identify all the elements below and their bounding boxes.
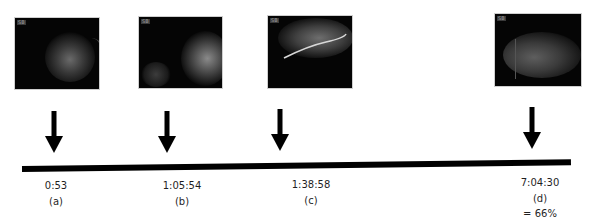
timeline-axis <box>22 159 571 172</box>
event-label-b: (b) <box>142 196 222 208</box>
arrow-down-icon <box>271 109 289 151</box>
tissue-shape <box>141 62 171 87</box>
thumbnail-c: SB <box>267 15 353 89</box>
arrow-down-icon <box>45 111 63 153</box>
time-label-a: 0:53 <box>16 180 96 192</box>
event-label-c: (c) <box>271 195 351 207</box>
arrow-down-icon <box>158 111 176 153</box>
completion-note: = 66% <box>500 208 580 220</box>
thumbnail-tag: SB <box>141 19 150 24</box>
fold-highlight <box>268 16 353 89</box>
event-label-a: (a) <box>16 196 96 208</box>
time-label-d: 7:04:30 <box>500 177 580 189</box>
thumbnail-b: SB <box>138 16 223 89</box>
time-label-c: 1:38:58 <box>271 179 351 191</box>
thumbnail-tag: SB <box>17 20 26 25</box>
thumbnail-a: SB <box>14 17 100 90</box>
event-label-d: (d) <box>500 193 580 205</box>
arrow-down-icon <box>523 107 541 149</box>
thumbnail-d: SB <box>494 13 582 87</box>
tissue-edge <box>75 38 100 90</box>
time-label-b: 1:05:54 <box>142 180 222 192</box>
tissue-shape <box>181 31 223 86</box>
scan-line <box>515 39 516 79</box>
thumbnail-tag: SB <box>497 16 506 21</box>
